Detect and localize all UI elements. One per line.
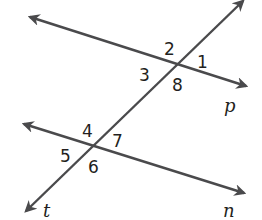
angle-label-3: 3	[139, 65, 150, 85]
angle-label-7: 7	[112, 131, 123, 151]
line-label-t: t	[43, 200, 51, 220]
angle-label-2: 2	[164, 39, 175, 59]
line-t	[26, 1, 243, 211]
line-label-p: p	[224, 95, 236, 116]
diagram-canvas: 12384756pnt	[0, 0, 262, 220]
angle-label-8: 8	[172, 75, 183, 95]
angle-label-4: 4	[82, 121, 93, 141]
line-p	[30, 17, 246, 86]
angle-label-6: 6	[88, 157, 99, 177]
line-label-n: n	[223, 200, 235, 220]
angle-label-5: 5	[60, 146, 71, 166]
angle-label-1: 1	[197, 52, 208, 72]
